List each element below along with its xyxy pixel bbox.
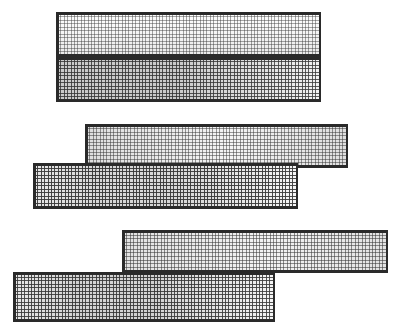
edge-right-border [346, 125, 348, 167]
grid-lines [86, 125, 347, 167]
edge-bottom-border [57, 54, 320, 56]
middle-upper-mesh [85, 124, 348, 168]
top-lower-mesh [56, 57, 321, 102]
edge-left-border [34, 164, 36, 208]
shading-gradient [57, 13, 320, 56]
edge-top-border [57, 13, 320, 15]
grid-lines [57, 13, 320, 56]
edge-left-border [123, 231, 125, 272]
mesh-figure [0, 0, 407, 333]
edge-top-border [14, 273, 274, 275]
shading-gradient [57, 58, 320, 101]
top-upper-mesh [56, 12, 321, 57]
edge-top-border [86, 125, 347, 127]
shading-gradient [14, 273, 274, 321]
middle-lower-mesh [33, 163, 298, 209]
grid-lines [123, 231, 387, 272]
edge-left-border [14, 273, 16, 321]
edge-left-border [57, 58, 59, 101]
grid-lines [14, 273, 274, 321]
edge-left-border [57, 13, 59, 56]
grid-lines [34, 164, 297, 208]
edge-right-border [296, 164, 298, 208]
edge-right-border [319, 13, 321, 56]
edge-left-border [86, 125, 88, 167]
shading-gradient [86, 125, 347, 167]
edge-right-border [386, 231, 388, 272]
edge-right-border [273, 273, 275, 321]
edge-right-border [319, 58, 321, 101]
edge-bottom-border [14, 319, 274, 321]
edge-top-border [34, 164, 297, 166]
bottom-upper-mesh [122, 230, 388, 273]
edge-top-border [57, 58, 320, 60]
bottom-lower-mesh [13, 272, 275, 322]
edge-top-border [123, 231, 387, 233]
edge-bottom-border [34, 206, 297, 208]
shading-gradient [123, 231, 387, 272]
shading-gradient [34, 164, 297, 208]
edge-bottom-border [57, 99, 320, 101]
grid-lines [57, 58, 320, 101]
